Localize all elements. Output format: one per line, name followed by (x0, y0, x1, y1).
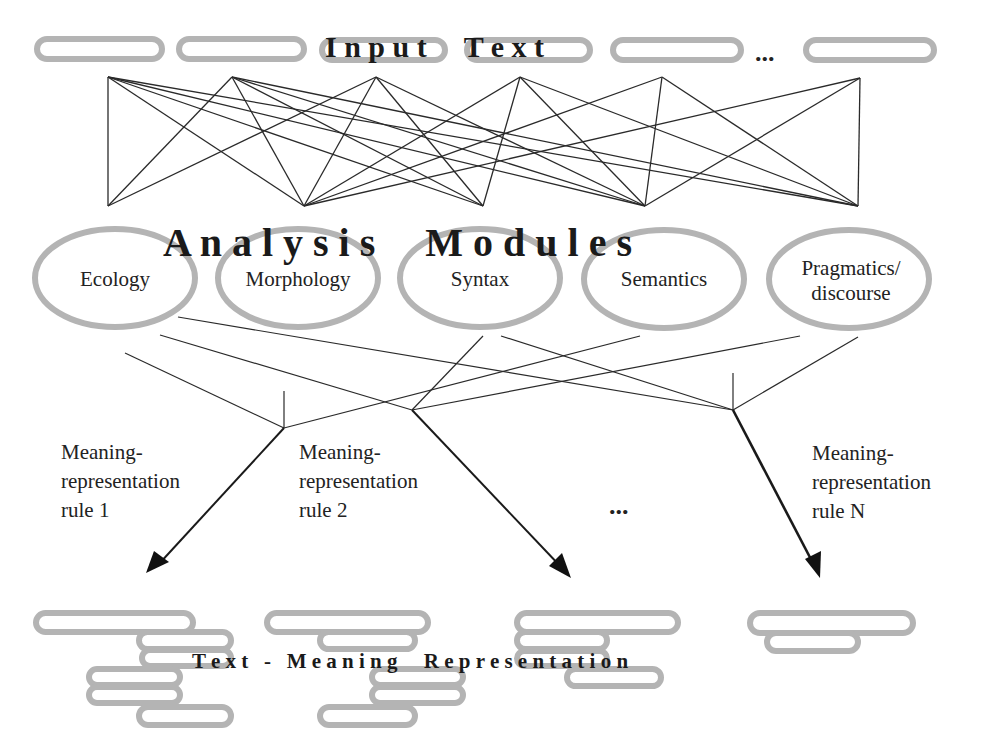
svg-text:representation: representation (812, 470, 931, 494)
rule-1-arrow (158, 428, 284, 565)
svg-text:Meaning-: Meaning- (299, 440, 381, 464)
tmr-title: T e x t - M e a n i n g R e p r e s e n … (192, 649, 628, 673)
rules-ellipsis: ... (609, 491, 629, 520)
rule-arrows (146, 410, 821, 578)
rule-2-label: Meaning- representation rule 2 (299, 440, 418, 522)
svg-text:rule 1: rule 1 (61, 498, 109, 522)
module-pragmatics-label-line1: Pragmatics/ (801, 256, 900, 280)
module-syntax-label: Syntax (451, 267, 510, 291)
module-morphology-label: Morphology (246, 267, 352, 291)
input-pill-5 (613, 40, 741, 60)
module-pragmatics-label-line2: discourse (811, 281, 890, 305)
modules-to-rules-connections (125, 317, 858, 428)
module-semantics-label: Semantics (621, 267, 707, 291)
input-pill-6 (806, 40, 934, 60)
svg-text:representation: representation (61, 469, 180, 493)
svg-text:Meaning-: Meaning- (61, 440, 143, 464)
analysis-modules-title: A n a l y s i s M o d u l e s (163, 220, 632, 265)
arrowhead-icon (146, 551, 169, 573)
rule-n-arrow (733, 410, 815, 567)
input-pill-2 (179, 39, 304, 59)
input-ellipsis: ... (755, 38, 775, 67)
input-to-modules-connections (108, 77, 860, 206)
svg-text:representation: representation (299, 469, 418, 493)
svg-text:rule 2: rule 2 (299, 498, 347, 522)
input-pill-1 (37, 39, 162, 59)
rule-2-arrow (412, 410, 562, 568)
svg-text:Meaning-: Meaning- (812, 441, 894, 465)
tmr-architecture-diagram: I n p u t T e x t ... (0, 0, 986, 754)
input-text-title: I n p u t T e x t (325, 30, 544, 63)
svg-text:rule N: rule N (812, 499, 865, 523)
rule-1-label: Meaning- representation rule 1 (61, 440, 180, 522)
module-ecology-label: Ecology (80, 267, 150, 291)
rule-n-label: Meaning- representation rule N (812, 441, 931, 523)
